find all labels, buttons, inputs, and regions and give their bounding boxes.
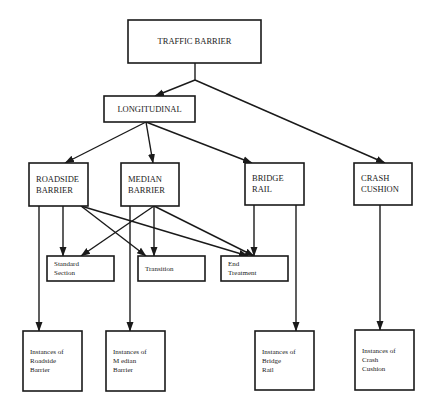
traffic-barrier-hierarchy-diagram: TRAFFIC BARRIERLONGITUDINALROADSIDEBARRI… bbox=[0, 0, 438, 413]
node-roadside-barrier: ROADSIDEBARRIER bbox=[29, 163, 88, 206]
arrow-junction-to-longitudinal bbox=[155, 80, 195, 96]
nodes-layer: TRAFFIC BARRIERLONGITUDINALROADSIDEBARRI… bbox=[23, 20, 414, 391]
node-label: CRASH bbox=[361, 173, 389, 183]
node-label: ROADSIDE bbox=[36, 174, 79, 184]
node-instances-bridge: Instances ofBridgeRail bbox=[255, 331, 314, 390]
node-label: Barrier bbox=[30, 366, 50, 374]
node-label: Instances of bbox=[30, 348, 64, 356]
node-label: LONGITUDINAL bbox=[117, 104, 181, 114]
node-label: Treatment bbox=[228, 269, 257, 277]
node-label: RAIL bbox=[252, 184, 272, 194]
arrow-longitudinal-to-bridge-rail bbox=[146, 122, 252, 163]
node-label: Transition bbox=[145, 265, 174, 273]
arrow-median-barrier-to-standard-section bbox=[81, 206, 154, 256]
arrow-junction-to-crash-cushion bbox=[195, 80, 385, 163]
node-traffic-barrier: TRAFFIC BARRIER bbox=[128, 20, 261, 63]
node-label: End bbox=[228, 260, 240, 268]
arrow-longitudinal-to-roadside-barrier bbox=[65, 122, 146, 163]
node-longitudinal: LONGITUDINAL bbox=[104, 96, 195, 122]
node-label: Barrier bbox=[113, 366, 133, 374]
node-label: BARRIER bbox=[36, 185, 73, 195]
arrow-roadside-barrier-to-end-treatment bbox=[81, 206, 248, 256]
node-crash-cushion: CRASHCUSHION bbox=[354, 163, 412, 205]
node-label: Roadside bbox=[30, 357, 56, 365]
node-label: BARRIER bbox=[128, 185, 165, 195]
node-label: TRAFFIC BARRIER bbox=[158, 36, 232, 46]
node-standard-section: StandardSection bbox=[47, 256, 114, 281]
node-label: Standard bbox=[54, 260, 79, 268]
node-label: Instances of bbox=[113, 348, 147, 356]
node-instances-crash: Instances ofCrashCushion bbox=[355, 330, 414, 390]
node-label: Instances of bbox=[362, 347, 396, 355]
node-median-barrier: MEDIANBARRIER bbox=[121, 163, 179, 206]
node-label: Instances of bbox=[262, 348, 296, 356]
node-transition: Transition bbox=[138, 256, 205, 281]
node-label: M edian bbox=[113, 357, 137, 365]
node-label: MEDIAN bbox=[128, 174, 162, 184]
node-label: Crash bbox=[362, 356, 379, 364]
node-label: Rail bbox=[262, 366, 274, 374]
node-label: Section bbox=[54, 269, 75, 277]
arrow-median-barrier-to-end-treatment bbox=[154, 206, 254, 256]
node-instances-roadside: Instances ofRoadsideBarrier bbox=[23, 331, 82, 391]
node-instances-median: Instances ofM edianBarrier bbox=[106, 331, 165, 391]
node-label: Cushion bbox=[362, 365, 386, 373]
node-label: CUSHION bbox=[361, 184, 399, 194]
node-end-treatment: EndTreatment bbox=[221, 256, 288, 281]
arrow-longitudinal-to-median-barrier bbox=[146, 122, 153, 163]
node-label: Bridge bbox=[262, 357, 281, 365]
edges-layer bbox=[39, 63, 385, 331]
node-label: BRIDGE bbox=[252, 173, 284, 183]
node-bridge-rail: BRIDGERAIL bbox=[245, 163, 304, 205]
